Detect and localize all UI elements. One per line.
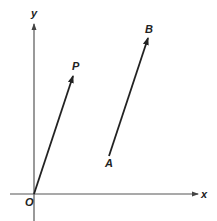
vector-diagram: y x O P B A <box>0 0 217 221</box>
point-b-label: B <box>145 23 153 35</box>
point-p-label: P <box>72 60 80 72</box>
x-axis-label: x <box>200 188 208 200</box>
vector-op <box>34 76 73 194</box>
vector-ab <box>109 38 148 156</box>
origin-label: O <box>25 196 34 208</box>
y-axis-label: y <box>30 7 38 19</box>
point-a-label: A <box>104 157 113 169</box>
